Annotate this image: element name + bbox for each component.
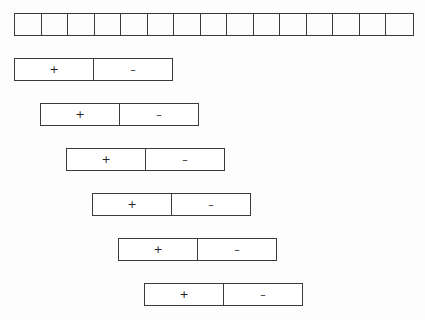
minus-cell: – [172, 194, 250, 215]
cell [95, 14, 122, 35]
minus-cell: – [120, 104, 198, 125]
plus-minus-box-5: + – [118, 238, 277, 261]
plus-cell: + [145, 284, 224, 305]
cell-row [14, 13, 414, 36]
cell [307, 14, 334, 35]
minus-cell: – [146, 149, 224, 170]
plus-minus-box-1: + – [14, 58, 173, 81]
cell [148, 14, 175, 35]
cell [386, 14, 413, 35]
cell [15, 14, 42, 35]
plus-minus-box-6: + – [144, 283, 303, 306]
cell [42, 14, 69, 35]
cell [254, 14, 281, 35]
plus-cell: + [67, 149, 146, 170]
cell [280, 14, 307, 35]
cell [333, 14, 360, 35]
plus-cell: + [93, 194, 172, 215]
cell [121, 14, 148, 35]
minus-cell: – [198, 239, 276, 260]
plus-cell: + [41, 104, 120, 125]
cell [360, 14, 387, 35]
plus-cell: + [15, 59, 94, 80]
minus-cell: – [224, 284, 302, 305]
cell [227, 14, 254, 35]
cell [201, 14, 228, 35]
cell [68, 14, 95, 35]
plus-cell: + [119, 239, 198, 260]
plus-minus-box-3: + – [66, 148, 225, 171]
plus-minus-box-4: + – [92, 193, 251, 216]
plus-minus-box-2: + – [40, 103, 199, 126]
minus-cell: – [94, 59, 172, 80]
cell [174, 14, 201, 35]
